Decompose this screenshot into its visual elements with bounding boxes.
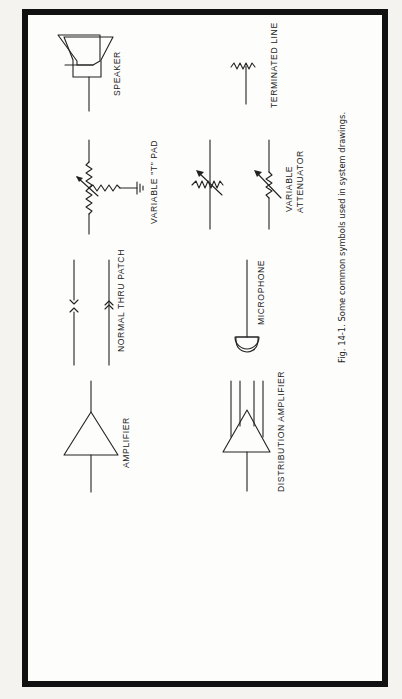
variable-attenuator-label-2: ATTENUATOR xyxy=(295,150,305,213)
figure-frame xyxy=(25,12,385,684)
variable-attenuator-label-1: VARIABLE xyxy=(284,166,294,212)
terminated-line-label: TERMINATED LINE xyxy=(269,22,279,108)
distribution-amplifier-label: DISTRIBUTION AMPLIFIER xyxy=(276,371,286,492)
figure-caption: Fig. 14-1. Some common symbols used in s… xyxy=(337,112,347,363)
speaker-label: SPEAKER xyxy=(112,51,122,96)
variable-t-pad-label: VARIABLE "T" PAD xyxy=(149,140,159,224)
microphone-label: MICROPHONE xyxy=(256,260,266,325)
normal-thru-patch-label: NORMAL THRU PATCH xyxy=(116,249,126,352)
amplifier-label: AMPLIFIER xyxy=(121,417,131,468)
symbols-figure: SPEAKER VARIABLE "T" PAD NORMAL THRU PAT… xyxy=(0,0,402,699)
